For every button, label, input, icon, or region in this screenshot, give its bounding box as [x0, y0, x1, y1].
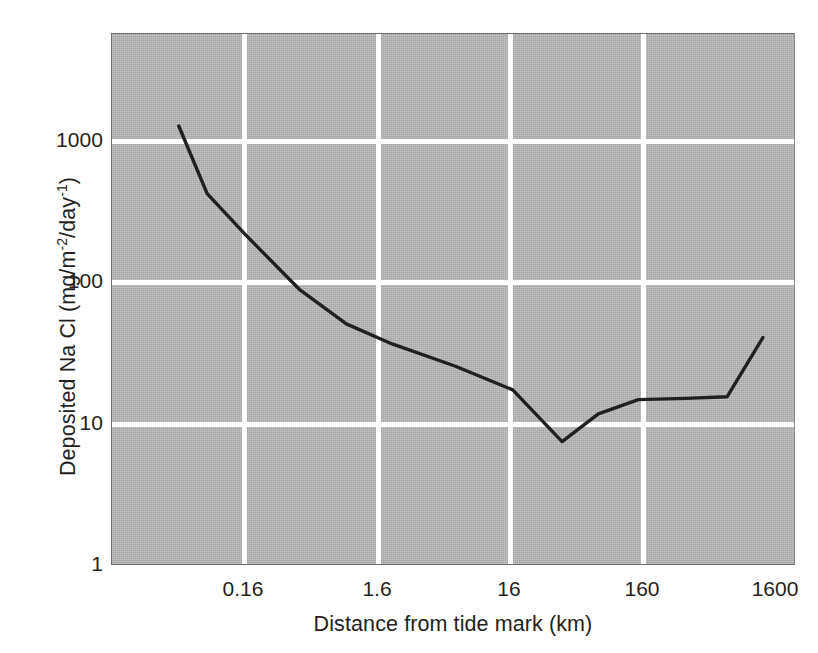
y-axis-title: Deposited Na Cl (mg/m-2/day-1): [48, 0, 88, 653]
x-tick-1.6: 1.6: [362, 578, 391, 599]
x-tick-1600: 1600: [752, 578, 799, 599]
x-tick-0.16: 0.16: [223, 578, 264, 599]
y-axis-title-exponent-time: -1: [53, 184, 69, 197]
y-axis-title-prefix: Deposited Na Cl (mg/m: [56, 251, 80, 477]
x-tick-160: 160: [624, 578, 659, 599]
plot-area: [111, 33, 795, 565]
y-axis-title-exponent-area: -2: [53, 238, 69, 251]
series-line-layer: [112, 34, 794, 564]
series-line-deposited-nacl: [179, 126, 763, 442]
x-axis-title: Distance from tide mark (km): [111, 612, 795, 637]
x-axis-ticks: 0.16 1.6 16 160 1600: [0, 578, 818, 606]
y-axis-title-middle: /day: [56, 197, 80, 238]
x-tick-16: 16: [497, 578, 520, 599]
chart-figure: 1000 100 10 1 0.16 1.6 16 160 1600 Depos…: [0, 0, 818, 653]
y-axis-title-suffix: ): [56, 177, 80, 184]
y-tick-1: 1: [91, 553, 103, 574]
